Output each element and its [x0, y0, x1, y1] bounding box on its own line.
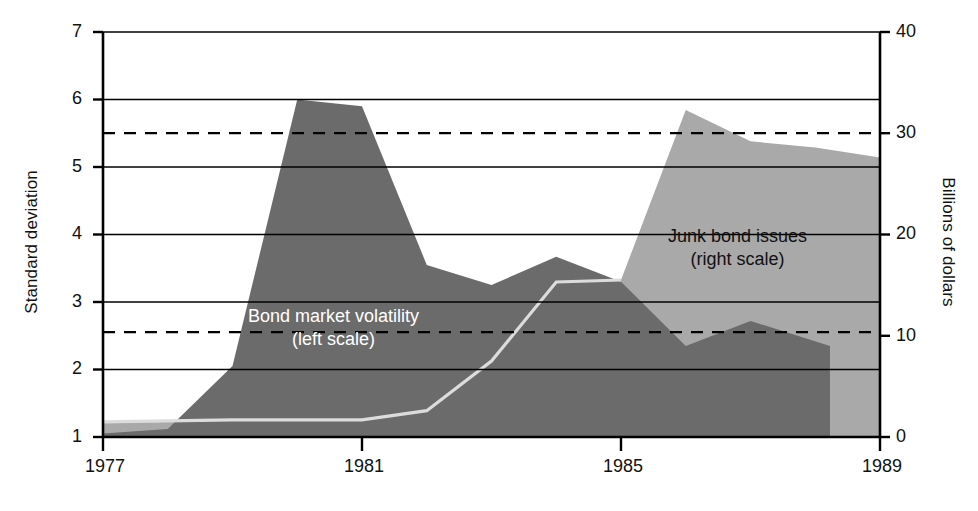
- right-ytick-30: 30: [896, 122, 916, 143]
- series-label-junk-bond-line2: (right scale): [668, 248, 807, 271]
- right-ytick-20: 20: [896, 223, 916, 244]
- x-axis-ticks: [103, 437, 880, 451]
- left-ytick-1: 1: [72, 426, 82, 447]
- right-axis-title: Billions of dollars: [938, 142, 958, 342]
- xtick-1985: 1985: [603, 456, 643, 477]
- xtick-1981: 1981: [344, 456, 384, 477]
- series-label-bond-volatility-line2: (left scale): [248, 328, 419, 351]
- right-ytick-10: 10: [896, 325, 916, 346]
- left-axis-ticks: [93, 32, 103, 437]
- left-ytick-2: 2: [72, 358, 82, 379]
- left-ytick-3: 3: [72, 291, 82, 312]
- right-ytick-40: 40: [896, 21, 916, 42]
- left-axis-title: Standard deviation: [22, 142, 42, 342]
- series-label-bond-volatility: Bond market volatility (left scale): [248, 305, 419, 351]
- series-label-bond-volatility-line1: Bond market volatility: [248, 305, 419, 328]
- chart-plot-area: [0, 0, 978, 511]
- left-ytick-6: 6: [72, 88, 82, 109]
- xtick-1977: 1977: [85, 456, 125, 477]
- xtick-1989: 1989: [862, 456, 902, 477]
- right-ytick-0: 0: [896, 426, 906, 447]
- left-ytick-5: 5: [72, 156, 82, 177]
- series-label-junk-bond-line1: Junk bond issues: [668, 225, 807, 248]
- left-ytick-4: 4: [72, 223, 82, 244]
- left-ytick-7: 7: [72, 21, 82, 42]
- right-axis-ticks: [880, 32, 890, 437]
- chart-figure: Standard deviation Billions of dollars 7…: [0, 0, 978, 511]
- series-label-junk-bond: Junk bond issues (right scale): [668, 225, 807, 271]
